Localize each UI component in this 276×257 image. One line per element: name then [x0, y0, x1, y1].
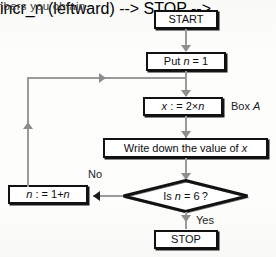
paper-texture-overlay	[0, 0, 276, 257]
edge-label-no: No	[88, 168, 102, 180]
arrowhead-down-to-stop	[181, 215, 191, 222]
arrowhead-up-loop	[23, 122, 33, 129]
node-label-start: START	[168, 14, 203, 25]
page-caption-text: nbers you obtain.	[0, 0, 89, 12]
node-label-decision: Is n = 6 ?	[163, 190, 208, 202]
flowchart-node-incr-n: n : = 1+n	[8, 185, 88, 204]
flowchart-node-start: START	[154, 10, 218, 29]
connector-loop-vertical	[27, 77, 29, 183]
connector-loop-horizontal	[27, 77, 186, 79]
flowchart-node-assign-x: x : = 2×n	[143, 97, 223, 116]
arrowhead-down-to-write	[181, 131, 191, 138]
connector-incr-n-to-loop	[27, 180, 29, 187]
flowchart-node-stop: STOP	[154, 230, 218, 249]
node-label-put-n: Put n = 1	[164, 56, 208, 67]
edge-label-yes: Yes	[196, 214, 214, 226]
node-label-write-x: Write down the value of x	[124, 143, 247, 154]
arrowhead-right-loop-rejoin	[99, 73, 106, 83]
flowchart-node-write-x: Write down the value of x	[103, 138, 268, 158]
node-label-stop: STOP	[171, 234, 201, 245]
node-label-incr-n: n : = 1+n	[26, 189, 69, 200]
arrowhead-down-to-assign-x	[181, 90, 191, 97]
node-label-assign-x: x : = 2×n	[162, 101, 205, 112]
flowchart-node-put-n: Put n = 1	[146, 52, 226, 71]
flowchart-page: nbers you obtain. START Put n = 1 x : = …	[0, 0, 276, 257]
annotation-box-a: Box A	[231, 100, 260, 112]
arrowhead-down-to-put-n	[181, 45, 191, 52]
flowchart-node-decision: Is n = 6 ?	[122, 179, 249, 213]
arrowhead-left-to-incr-n	[93, 191, 100, 201]
